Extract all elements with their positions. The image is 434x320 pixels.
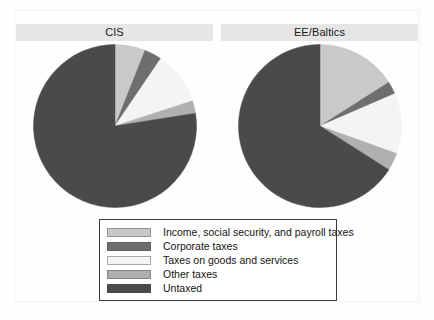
- legend-item-untaxed: Untaxed: [107, 281, 330, 295]
- chart-legend: Income, social security, and payroll tax…: [99, 219, 337, 301]
- legend-swatch-income: [107, 228, 151, 237]
- panel-title-band-ee-baltics: EE/Baltics: [221, 24, 418, 41]
- legend-label-income: Income, social security, and payroll tax…: [163, 227, 354, 238]
- legend-item-other: Other taxes: [107, 267, 330, 281]
- legend-swatch-other: [107, 270, 151, 279]
- legend-swatch-corporate: [107, 242, 151, 251]
- pie-chart-cis: [33, 44, 197, 208]
- panel-title-cis: CIS: [105, 27, 124, 38]
- legend-item-income: Income, social security, and payroll tax…: [107, 225, 330, 239]
- legend-swatch-goods-services: [107, 256, 151, 265]
- panel-title-ee-baltics: EE/Baltics: [294, 27, 345, 38]
- pie-chart-ee-baltics: [238, 44, 402, 208]
- panel-title-band-cis: CIS: [16, 24, 213, 41]
- legend-item-goods-services: Taxes on goods and services: [107, 253, 330, 267]
- legend-label-other: Other taxes: [163, 269, 217, 280]
- panel-title-row: CIS EE/Baltics: [16, 24, 418, 41]
- legend-item-corporate: Corporate taxes: [107, 239, 330, 253]
- legend-label-goods-services: Taxes on goods and services: [163, 255, 298, 266]
- legend-label-untaxed: Untaxed: [163, 283, 202, 294]
- legend-label-corporate: Corporate taxes: [163, 241, 238, 252]
- pie-cell-ee-baltics: [221, 44, 418, 212]
- figure-canvas: CIS EE/Baltics Income, social security, …: [0, 0, 434, 320]
- pie-cell-cis: [16, 44, 213, 212]
- legend-swatch-untaxed: [107, 284, 151, 293]
- pie-chart-row: [16, 44, 418, 212]
